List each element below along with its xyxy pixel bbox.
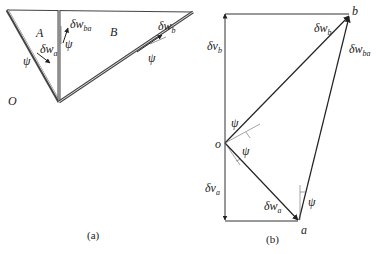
dwba-vector <box>299 17 349 220</box>
caption-a: (a) <box>87 229 99 241</box>
psi-a-label-b: ψ <box>308 196 315 208</box>
psi-a-label: ψ <box>23 55 30 67</box>
blade-top-edge <box>7 10 193 12</box>
origin-label: O <box>8 95 17 107</box>
dwba-label-b: δwba <box>349 43 371 58</box>
panel-b-diagram <box>225 14 349 221</box>
dwb-label-a: δwb <box>158 20 176 35</box>
region-b-label: B <box>110 26 117 38</box>
dwb-arrow-a <box>137 35 162 52</box>
point-a-label: a <box>301 224 307 236</box>
psi-top-label: ψ <box>231 117 238 129</box>
dva-label: δva <box>205 182 220 197</box>
caption-b: (b) <box>266 233 279 245</box>
dwa-label-b: δwa <box>264 200 282 215</box>
diagram-canvas <box>0 0 376 254</box>
dwa-label-a: δwa <box>40 43 58 58</box>
dwba-label-a: δwba <box>70 18 92 33</box>
point-b-label: b <box>352 5 358 17</box>
point-o-label: o <box>215 138 221 150</box>
psi-b-label: ψ <box>148 52 155 64</box>
psi-ba-label: ψ <box>65 38 72 50</box>
psi-mid-label: ψ <box>242 145 249 157</box>
dwb-label-b: δwb <box>314 22 332 37</box>
dwa-vector <box>225 143 298 220</box>
region-a-label: A <box>36 27 43 39</box>
dvb-label: δvb <box>207 40 222 55</box>
